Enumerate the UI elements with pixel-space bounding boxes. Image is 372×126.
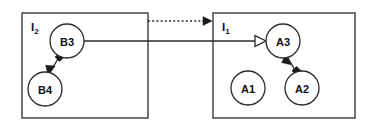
edge-i2-i1[interactable] — [148, 17, 212, 26]
node-a3-label: A3 — [276, 36, 290, 48]
node-a1-label: A1 — [241, 83, 255, 95]
diagram-canvas: I2 I1 I1 (dotted dependency) ===== --> A… — [0, 0, 372, 126]
node-b4[interactable]: B4 — [28, 72, 62, 106]
node-b3[interactable]: B3 — [50, 24, 84, 58]
node-a1[interactable]: A1 — [231, 71, 265, 105]
edge-i2-i1-arrowhead-icon — [203, 17, 212, 26]
node-a2[interactable]: A2 — [285, 71, 319, 105]
container-i2-label-sub: 2 — [34, 27, 39, 36]
diagram-svg: I2 I1 I1 (dotted dependency) ===== --> A… — [0, 0, 372, 126]
node-a2-label: A2 — [295, 83, 309, 95]
container-i1-label-sub: 1 — [225, 27, 230, 36]
node-b4-label: B4 — [38, 84, 53, 96]
node-a3[interactable]: A3 — [266, 24, 300, 58]
node-b3-label: B3 — [60, 36, 74, 48]
